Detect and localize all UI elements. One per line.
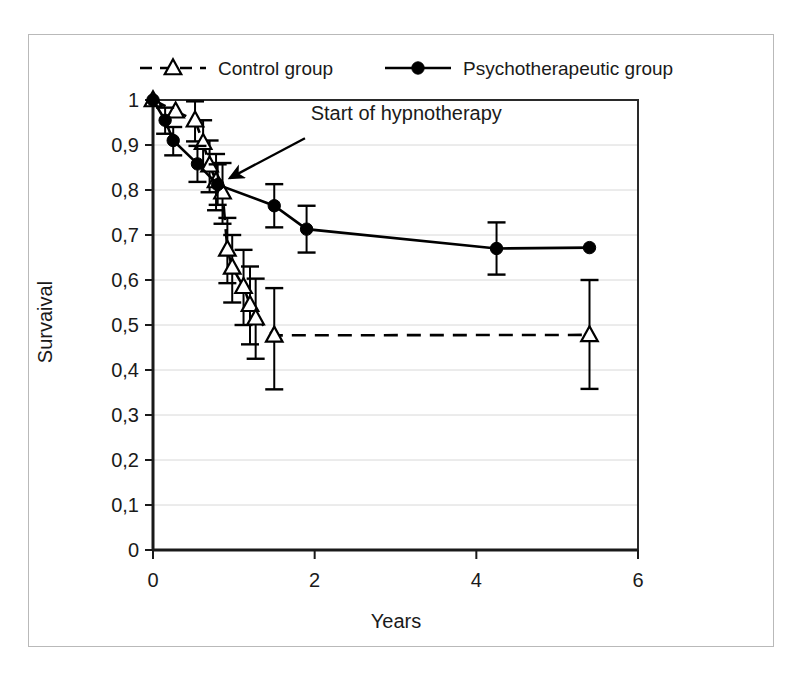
y-axis-title: Survaival [34, 281, 56, 363]
y-tick-label: 0,5 [111, 314, 139, 336]
data-point-marker [412, 62, 424, 74]
x-tick-label: 4 [471, 569, 482, 591]
y-tick-label: 0,7 [111, 224, 139, 246]
annotation-label: Start of hypnotherapy [311, 102, 502, 124]
series-control-group [145, 91, 599, 389]
data-point-marker [187, 112, 204, 127]
data-point-marker [583, 241, 595, 253]
data-point-marker [159, 114, 171, 126]
data-point-marker [581, 326, 598, 341]
data-point-marker [300, 223, 312, 235]
y-tick-label: 0,4 [111, 359, 139, 381]
data-point-marker [167, 134, 179, 146]
data-point-marker [167, 103, 184, 118]
data-point-marker [191, 158, 203, 170]
data-point-marker [268, 200, 280, 212]
y-tick-label: 1 [128, 89, 139, 111]
data-point-marker [211, 178, 223, 190]
y-tick-label: 0,3 [111, 404, 139, 426]
figure-container: 00,10,20,30,40,50,60,70,80,91 0246 Start… [0, 0, 805, 673]
y-tick-label: 0,8 [111, 179, 139, 201]
y-tick-label: 0,1 [111, 494, 139, 516]
x-tick-label: 2 [309, 569, 320, 591]
x-tick-label: 6 [632, 569, 643, 591]
y-tick-label: 0,9 [111, 134, 139, 156]
legend-label: Control group [218, 58, 333, 79]
data-point-marker [147, 94, 159, 106]
y-tick-label: 0,6 [111, 269, 139, 291]
y-tick-label: 0,2 [111, 449, 139, 471]
data-series-layer [145, 91, 599, 389]
annotation-arrow [230, 138, 305, 178]
survival-chart: 00,10,20,30,40,50,60,70,80,91 0246 Start… [0, 0, 805, 673]
data-point-marker [490, 242, 502, 254]
x-axis-title: Years [371, 610, 421, 632]
annotation-layer: Start of hypnotherapy [230, 102, 502, 178]
y-tick-label: 0 [128, 539, 139, 561]
chart-legend: Control groupPsychotherapeutic group [140, 58, 673, 79]
x-axis-ticks: 0246 [147, 550, 643, 591]
x-tick-label: 0 [147, 569, 158, 591]
y-axis-ticks: 00,10,20,30,40,50,60,70,80,91 [111, 89, 153, 561]
legend-label: Psychotherapeutic group [463, 58, 673, 79]
